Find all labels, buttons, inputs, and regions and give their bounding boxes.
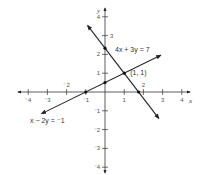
marked-point — [84, 90, 87, 93]
intersection-label: (1, 1) — [130, 69, 146, 77]
equation-label-1: 4x + 3y = 7 — [115, 46, 150, 54]
x-tick-label: 3 — [161, 97, 165, 103]
labels: xy⁻4⁻3⁻2⁻112344321⁻1⁻2⁻3⁻44x + 3y = 7x −… — [25, 7, 193, 170]
y-tick-label: ⁻3 — [94, 145, 101, 151]
marked-point — [137, 90, 140, 93]
x-tick-label: ⁻3 — [44, 97, 51, 103]
equation-label-2: x − 2y = ⁻1 — [30, 117, 65, 125]
x-tick-label: ⁻2 — [63, 82, 70, 88]
x-axis-label: x — [188, 97, 193, 105]
x-tick-label: 1 — [123, 97, 127, 103]
y-tick-label: ⁻4 — [94, 164, 101, 170]
x-tick-label: ⁻1 — [83, 97, 90, 103]
y-tick-label: ⁻1 — [94, 108, 101, 114]
y-tick-label: 3 — [110, 33, 114, 39]
marked-point — [103, 47, 106, 50]
y-tick-label: 2 — [97, 51, 101, 57]
x-tick-label: 4 — [180, 97, 184, 103]
x-tick-label: ⁻4 — [25, 97, 32, 103]
marked-point — [103, 81, 106, 84]
y-tick-label: ⁻2 — [94, 127, 101, 133]
x-tick-label: 2 — [142, 82, 146, 88]
intersection-point — [123, 72, 126, 75]
y-tick-label: 1 — [97, 70, 101, 76]
coordinate-plane: xy⁻4⁻3⁻2⁻112344321⁻1⁻2⁻3⁻44x + 3y = 7x −… — [0, 0, 202, 175]
